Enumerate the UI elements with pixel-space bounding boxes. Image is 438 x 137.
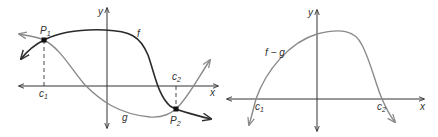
point-p1: [42, 38, 47, 43]
c1-label: c1: [255, 101, 264, 113]
left-graph: y x f g P1 P2 c1 c2: [19, 6, 218, 128]
curve-f-label: f: [137, 28, 141, 39]
point-p2: [174, 107, 179, 112]
y-axis-label: y: [307, 7, 314, 18]
x-axis-label: x: [209, 87, 216, 98]
c2-label: c2: [172, 71, 181, 83]
p1-label: P1: [40, 25, 51, 37]
diagram: y x f g P1 P2 c1 c2 y x f − g c1 c2: [0, 0, 438, 137]
p2-label: P2: [170, 115, 181, 127]
curve-g-label: g: [122, 112, 128, 123]
curve-g: [19, 34, 210, 117]
curve-f-minus-g: [249, 31, 395, 125]
right-graph: y x f − g c1 c2: [227, 7, 426, 131]
curve-f-minus-g-label: f − g: [265, 47, 285, 58]
c1-label: c1: [39, 88, 48, 100]
y-axis-label: y: [97, 6, 104, 17]
x-axis-label: x: [419, 101, 426, 112]
c2-label: c2: [377, 101, 386, 113]
